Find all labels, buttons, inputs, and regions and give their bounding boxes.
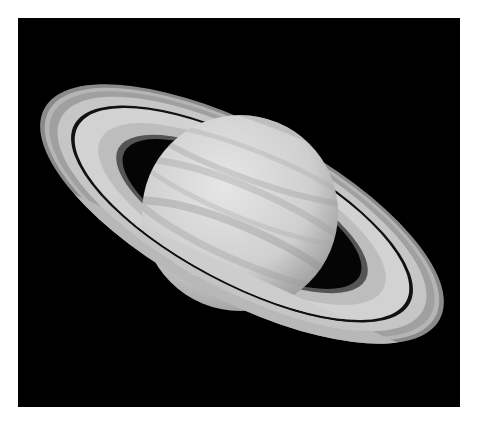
saturn-image: [0, 0, 479, 426]
